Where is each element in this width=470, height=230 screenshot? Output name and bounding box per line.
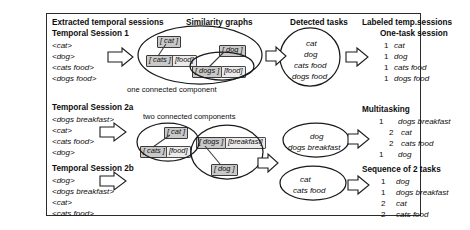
graph-edge-dogs-dog-2b xyxy=(205,146,220,164)
component-outline-2b-dog xyxy=(191,125,263,179)
task-outline-dog-group xyxy=(283,123,349,157)
arrow-session1-to-graph xyxy=(108,48,133,66)
task-outline-session-1 xyxy=(280,28,340,86)
graph-edge-cat-cats-2a xyxy=(153,135,170,147)
arrow-tasks1-to-labeled xyxy=(346,48,368,66)
arrow-session2b-to-graph xyxy=(100,172,126,190)
task-outline-cat-group xyxy=(280,166,346,200)
graph-edge-dog-dogs xyxy=(209,53,223,67)
graph-edge-cat-cats xyxy=(158,44,166,56)
pipeline-figure: Extracted temporal sessions Similarity g… xyxy=(0,0,470,230)
arrow-graph1-to-tasks xyxy=(266,47,286,65)
component-outline-dogs-food xyxy=(190,52,254,80)
arrow-graph2-to-cat-tasks xyxy=(258,154,278,172)
arrow-dogtasks-to-multitasking xyxy=(348,130,369,148)
arrow-cattasks-to-sequence xyxy=(348,176,369,194)
arrow-session2a-to-graph xyxy=(100,123,126,141)
diagram-vector-layer xyxy=(0,0,470,230)
component-outline-2a-cat xyxy=(137,123,199,161)
